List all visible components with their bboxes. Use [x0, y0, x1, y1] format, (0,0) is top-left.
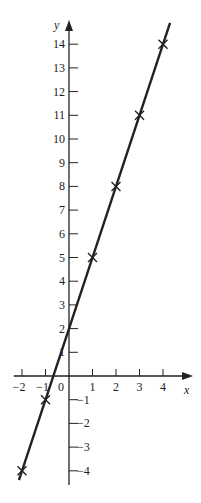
x-tick-label: 0: [58, 380, 64, 394]
x-tick-label: 3: [137, 380, 143, 394]
y-axis-label: y: [53, 18, 60, 32]
x-axis-label: x: [183, 383, 190, 397]
x-tick-label: 1: [90, 380, 96, 394]
x-tick-label: 4: [160, 380, 166, 394]
y-tick-label: 10: [53, 132, 65, 146]
y-tick-label: 11: [53, 108, 65, 122]
x-axis-arrow-icon: [182, 372, 193, 380]
y-tick-label: 4: [59, 274, 65, 288]
y-tick-label: 12: [53, 85, 65, 99]
y-tick-label: 5: [59, 251, 65, 265]
y-tick-label: 7: [59, 203, 65, 217]
y-tick-label: −3: [77, 440, 90, 454]
x-tick-label: 2: [113, 380, 119, 394]
y-tick-label: 2: [59, 322, 65, 336]
y-tick-label: −4: [77, 464, 90, 478]
y-tick-label: 3: [59, 298, 65, 312]
y-tick-label: −1: [77, 393, 90, 407]
data-line: [19, 23, 170, 480]
line-chart: yx−4−3−2−11234567891011121314−2−101234: [0, 0, 201, 503]
y-axis-arrow-icon: [65, 20, 73, 31]
x-tick-label: −2: [13, 380, 26, 394]
y-tick-label: 13: [53, 61, 65, 75]
y-tick-label: 9: [59, 156, 65, 170]
y-tick-label: 14: [53, 37, 65, 51]
y-tick-label: −2: [77, 416, 90, 430]
y-tick-label: 6: [59, 227, 65, 241]
y-tick-label: 8: [59, 179, 65, 193]
